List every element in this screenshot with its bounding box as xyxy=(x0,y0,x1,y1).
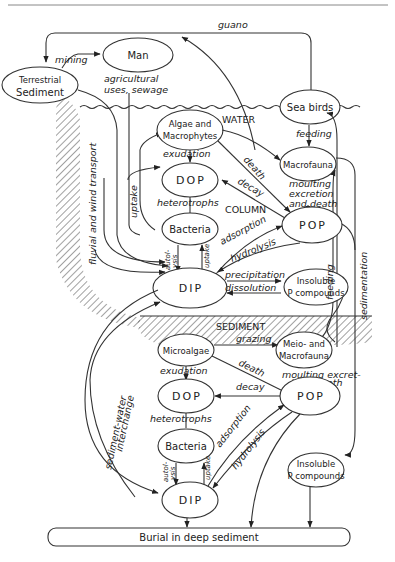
meio-label-1: Meio- and xyxy=(283,339,325,349)
label-precipitation: precipitation xyxy=(224,269,285,280)
label-autolysis-sed-2: ysis xyxy=(169,466,177,481)
label-mining: mining xyxy=(55,54,88,65)
macrofauna-label: Macrofauna xyxy=(283,160,333,170)
label-agri-2: uses, sewage xyxy=(104,84,168,95)
edge-dip-left-2 xyxy=(128,167,160,180)
node-algae-macrophytes xyxy=(157,110,223,150)
sea-birds-label: Sea birds xyxy=(287,102,333,113)
burial-label: Burial in deep sediment xyxy=(139,532,258,543)
bacteria-sed-label: Bacteria xyxy=(165,441,207,452)
terrestrial-label-1: Terrestrial xyxy=(18,75,61,85)
label-uptake-water: uptake xyxy=(128,185,139,218)
label-agri-1: agricultural xyxy=(104,73,159,84)
node-meio-macrofauna xyxy=(276,332,332,368)
dip-water-label: DIP xyxy=(179,282,203,295)
bacteria-water-label: Bacteria xyxy=(169,224,211,235)
label-guano: guano xyxy=(218,19,248,30)
label-autolysis-water-2: ysis xyxy=(171,254,179,269)
phosphorus-cycle-diagram: Terrestrial Sediment Man guano mining ag… xyxy=(0,0,395,562)
label-fluvial: fluvial and wind transport xyxy=(87,142,98,265)
meio-label-2: Macrofauna xyxy=(279,351,329,361)
pop-sed-label: POP xyxy=(297,390,325,403)
label-decay-sed: decay xyxy=(236,381,265,392)
label-dissolution: dissolution xyxy=(225,282,276,293)
algae-label-2: Macrophytes xyxy=(163,131,218,141)
label-feeding-birds: feeding xyxy=(296,128,332,139)
node-insoluble-water xyxy=(284,269,348,305)
label-heterotrophs-sed: heterotrophs xyxy=(150,413,212,424)
pop-water-label: POP xyxy=(299,219,327,232)
region-column: COLUMN xyxy=(225,204,266,215)
edge-death-water xyxy=(218,141,290,212)
dip-sed-label: DIP xyxy=(179,494,203,507)
insoluble-sed-label-1: Insoluble xyxy=(297,459,335,469)
terrestrial-label-2: Sediment xyxy=(16,87,64,98)
label-exudation-sed: exudation xyxy=(160,365,208,376)
dop-water-label: DOP xyxy=(176,174,206,187)
microalgae-label: Microalgae xyxy=(163,346,209,356)
region-water: WATER xyxy=(222,114,255,125)
insoluble-sed-label-2: P compounds xyxy=(287,471,345,481)
dop-sed-label: DOP xyxy=(172,390,202,403)
insoluble-water-label-2: P compounds xyxy=(287,288,345,298)
man-label: Man xyxy=(127,50,148,61)
label-sedimentation: sedimentation xyxy=(358,252,369,320)
region-sediment: SEDIMENT xyxy=(216,321,265,332)
algae-label-1: Algae and xyxy=(169,119,212,129)
label-grazing: grazing xyxy=(236,333,271,344)
edge-dip-left-3 xyxy=(95,250,165,272)
edge-uptake-water xyxy=(140,133,162,230)
label-exudation-water: exudation xyxy=(163,148,211,159)
label-uptake-bact-sed: uptake xyxy=(204,456,212,480)
label-heterotrophs-water: heterotrophs xyxy=(157,197,219,208)
label-uptake-bact-water: uptake xyxy=(203,244,211,268)
label-feeding-right: feeding xyxy=(324,264,335,300)
